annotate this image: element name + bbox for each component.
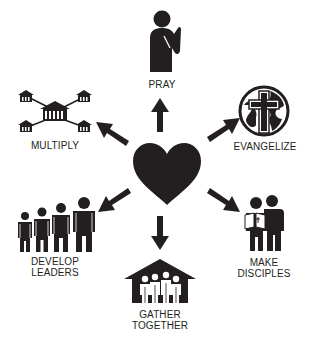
develop-leaders-label-line1: DEVELOP bbox=[22, 256, 88, 267]
house-people-icon bbox=[124, 259, 196, 303]
pray-label: PRAY bbox=[140, 79, 184, 90]
multiply-label: MULTIPLY bbox=[22, 140, 88, 151]
praying-person-icon bbox=[146, 10, 182, 74]
gather-together-label-line1: GATHER bbox=[120, 309, 200, 320]
arrow-up-left-icon bbox=[96, 122, 130, 148]
make-disciples-label-line1: MAKE bbox=[234, 257, 294, 268]
gather-together-label-line2: TOGETHER bbox=[120, 320, 200, 331]
heart-icon bbox=[133, 143, 201, 205]
arrow-down-left-icon bbox=[98, 186, 132, 212]
house-network-icon bbox=[14, 87, 96, 137]
arrow-down-icon bbox=[150, 216, 170, 250]
make-disciples-label-line2: DISCIPLES bbox=[234, 268, 294, 279]
arrow-up-icon bbox=[150, 98, 170, 132]
arrow-up-right-icon bbox=[206, 118, 240, 144]
develop-leaders-label-line2: LEADERS bbox=[22, 267, 88, 278]
growing-people-icon bbox=[16, 196, 98, 252]
two-people-bible-icon bbox=[242, 195, 286, 251]
arrow-down-right-icon bbox=[206, 186, 240, 212]
globe-cross-icon bbox=[238, 85, 290, 137]
